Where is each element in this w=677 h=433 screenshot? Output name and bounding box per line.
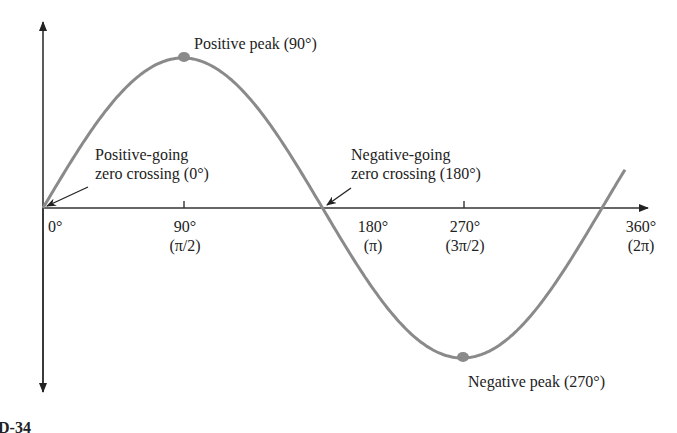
tick-label-270: 270° [450,217,480,236]
tick-label-360: 360° [626,217,656,236]
tick-label-90: 90° [174,217,196,236]
negative-peak-marker [457,352,469,362]
tick-label-90-rad: (π/2) [169,236,200,255]
pos-zero-label-2: zero crossing (0°) [95,164,209,183]
pos-zero-label-1: Positive-going [95,145,188,164]
tick-label-180: 180° [358,217,388,236]
neg-zero-label-2: zero crossing (180°) [351,164,481,183]
tick-label-270-rad: (3π/2) [445,236,484,255]
neg-zero-arrow [327,188,351,205]
tick-label-180-rad: (π) [364,236,383,255]
positive-peak-label: Positive peak (90°) [194,34,317,53]
tick-label-360-rad: (2π) [628,236,655,255]
positive-peak-marker [178,52,190,62]
neg-zero-label-1: Negative-going [351,145,451,164]
figure-caption-fragment: D-34 [0,418,31,433]
tick-label-0: 0° [48,217,62,236]
negative-peak-label: Negative peak (270°) [468,372,605,391]
sine-wave-diagram [0,0,677,433]
